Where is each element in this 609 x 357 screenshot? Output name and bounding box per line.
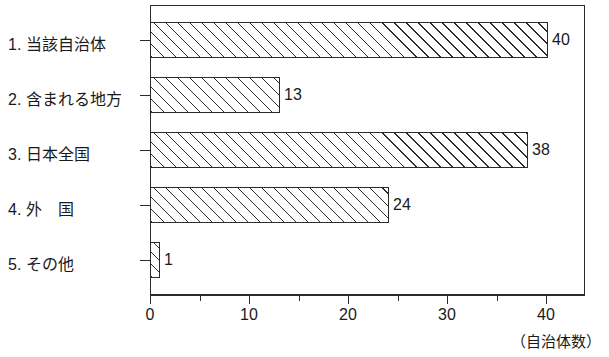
x-tick-5	[200, 295, 201, 301]
bar-value-2: 13	[284, 77, 302, 113]
bar-3	[150, 132, 528, 168]
x-tick-30	[447, 295, 448, 304]
bar-value-3: 38	[532, 132, 550, 168]
x-tick-20	[348, 295, 349, 304]
x-tick-0	[150, 295, 151, 304]
bar-4	[150, 187, 389, 223]
category-label-1: 1. 当該自治体	[0, 31, 134, 55]
bar-chart-figure: 1. 当該自治体 40 2. 含まれる地方 13 3. 日本全国 38 4. 外…	[0, 0, 609, 357]
x-tick-40	[546, 295, 547, 304]
category-label-4: 4. 外 国	[0, 196, 134, 220]
bar-2	[150, 77, 280, 113]
category-label-3: 3. 日本全国	[0, 141, 134, 165]
x-tick-10	[249, 295, 250, 304]
x-tick-35	[497, 295, 498, 301]
bar-value-1: 40	[552, 22, 570, 58]
category-label-5: 5. その他	[0, 251, 134, 275]
bar-value-4: 24	[393, 187, 411, 223]
x-tick-label-20: 20	[339, 306, 357, 324]
category-label-2: 2. 含まれる地方	[0, 86, 134, 110]
bar-5	[150, 242, 160, 278]
x-tick-25	[398, 295, 399, 301]
x-tick-label-10: 10	[240, 306, 258, 324]
bar-value-5: 1	[164, 242, 173, 278]
x-tick-15	[299, 295, 300, 301]
x-axis-line	[150, 295, 585, 296]
x-tick-label-40: 40	[537, 306, 555, 324]
x-tick-label-0: 0	[146, 306, 155, 324]
axis-unit-label: （自治体数）	[511, 330, 601, 351]
x-tick-label-30: 30	[438, 306, 456, 324]
bar-1	[150, 22, 548, 58]
